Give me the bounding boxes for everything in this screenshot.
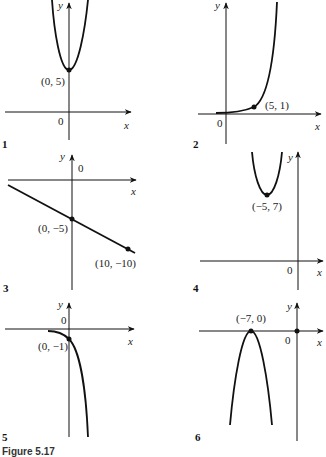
origin-label: 0 [217, 117, 223, 129]
x-axis-label: x [130, 185, 136, 197]
origin-label: 0 [58, 115, 64, 127]
origin-label: 0 [287, 264, 293, 276]
x-axis-label: x [314, 120, 320, 132]
x-axis-label: x [127, 335, 133, 347]
point-marker [252, 105, 257, 110]
y-axis-label: y [57, 298, 63, 310]
panel-number: 4 [193, 282, 199, 294]
panel-5: (0, −1) y x 0 5 [2, 298, 134, 443]
panel-number: 1 [2, 138, 8, 150]
panel-4: (−5, 7) y x 0 4 [193, 151, 323, 294]
origin-label: 0 [285, 334, 291, 346]
point-label: (0, −1) [38, 340, 68, 353]
panel-number: 3 [3, 282, 9, 294]
point-label: (0, −5) [38, 222, 68, 235]
y-axis-label: y [287, 151, 293, 163]
y-axis-label: y [286, 300, 292, 312]
panel-number: 5 [2, 431, 8, 443]
y-axis-label: y [59, 150, 65, 162]
x-axis-label: x [123, 119, 129, 131]
y-axis-label: y [57, 0, 63, 11]
panel-3: (0, −5) (10, −10) y x 0 3 [3, 150, 136, 294]
point-marker [67, 68, 72, 73]
origin-marker [295, 329, 300, 334]
parabola-curve [252, 152, 282, 195]
y-axis-label: y [214, 0, 220, 11]
point-marker [265, 193, 270, 198]
panel-1: (0, 5) y x 0 1 [2, 0, 131, 150]
exponential-curve [216, 2, 277, 113]
point-label: (10, −10) [95, 257, 136, 270]
point-label: (−7, 0) [236, 312, 266, 325]
point-marker [249, 329, 254, 334]
figure-caption: Figure 5.17 [2, 446, 55, 457]
panel-number: 6 [195, 431, 201, 443]
point-label: (0, 5) [41, 75, 65, 88]
point-label: (5, 1) [265, 99, 289, 112]
parabola-curve [230, 331, 272, 425]
panel-6: (−7, 0) y x 0 6 [195, 300, 323, 443]
point-marker [70, 217, 75, 222]
point-marker [126, 247, 131, 252]
x-axis-label: x [316, 266, 322, 278]
x-axis-label: x [316, 336, 322, 348]
origin-label: 0 [61, 314, 67, 326]
origin-label: 0 [78, 162, 84, 174]
panel-2: (5, 1) y x 0 2 [193, 0, 321, 150]
panel-number: 2 [193, 138, 199, 150]
point-label: (−5, 7) [252, 200, 282, 213]
